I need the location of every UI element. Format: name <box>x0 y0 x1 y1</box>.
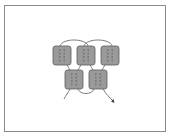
link-top3-bottom2-thread <box>102 65 105 70</box>
block-top-3 <box>101 46 119 65</box>
link-top2-bottom1-thread <box>78 65 81 70</box>
arc-bottom-1-2-thread <box>78 89 94 94</box>
link-top2-bottom2-thread <box>90 65 93 70</box>
block-bottom-2 <box>89 70 107 89</box>
block-top-2 <box>77 46 95 65</box>
arc-top-1-2-thread <box>60 40 88 46</box>
link-top1-bottom1-thread <box>67 65 70 70</box>
tail-left-thread <box>64 89 70 99</box>
linked-blocks-diagram <box>0 0 175 136</box>
tail-right-thread <box>103 89 113 101</box>
block-bottom-1 <box>65 70 83 89</box>
blocks-group <box>53 46 119 89</box>
block-top-1 <box>53 46 71 65</box>
arc-top-2-3-thread <box>84 40 112 46</box>
